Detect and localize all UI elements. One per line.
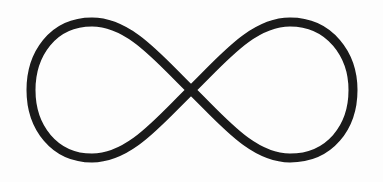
infinity-icon xyxy=(0,0,383,182)
infinity-canvas xyxy=(0,0,383,182)
infinity-path xyxy=(31,22,353,158)
